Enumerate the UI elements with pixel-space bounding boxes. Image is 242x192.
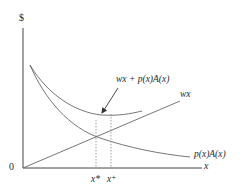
expected-loss-label: p(x)A(x) [194,150,226,160]
x-axis-label: x [204,161,208,171]
total-cost-label: wx + p(x)A(x) [116,75,169,85]
wx-label: wx [180,90,191,100]
x-star-label: x* [91,175,100,185]
x-plus-label: x⁺ [107,175,116,185]
total-cost-curve [30,65,142,115]
origin-label: 0 [9,162,14,172]
y-axis-label: $ [19,13,24,23]
annotation-arrow-icon [102,88,118,113]
wx-line [23,101,180,168]
